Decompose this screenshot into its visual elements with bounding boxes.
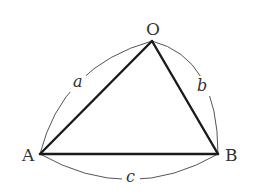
edge-AO — [40, 41, 152, 154]
side-label-b: b — [197, 76, 207, 95]
vertex-label-o: O — [146, 19, 160, 39]
side-label-c: c — [126, 167, 135, 186]
triangle-diagram: O A B a b c — [0, 0, 254, 194]
side-label-a: a — [73, 72, 83, 91]
vertex-label-b: B — [225, 145, 238, 165]
vertex-label-a: A — [21, 145, 35, 165]
